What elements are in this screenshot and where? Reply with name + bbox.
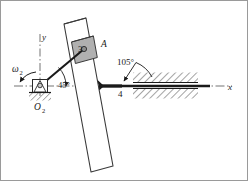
diagram-canvas: y x ω 2 45° 105° A 3 4 O 2: [0, 0, 248, 181]
slot-hatch-upper: [133, 73, 198, 83]
omega2-subscript: 2: [20, 69, 23, 76]
omega2-label: ω: [12, 64, 19, 74]
pivot-o2-label: O: [34, 102, 41, 112]
pivot-base-hatch: [29, 93, 51, 101]
pivot-o2-subscript: 2: [42, 107, 45, 114]
link-3-label: 3: [78, 44, 83, 54]
angle-45-label: 45°: [58, 80, 70, 90]
angle-105-label: 105°: [117, 57, 135, 67]
slot-hatch-lower: [133, 89, 198, 99]
link-4-label: 4: [118, 89, 123, 99]
ground-pivot-o2: [29, 80, 51, 101]
point-a-label: A: [100, 39, 107, 49]
y-axis-label: y: [41, 32, 46, 42]
x-axis-label: x: [227, 82, 232, 92]
